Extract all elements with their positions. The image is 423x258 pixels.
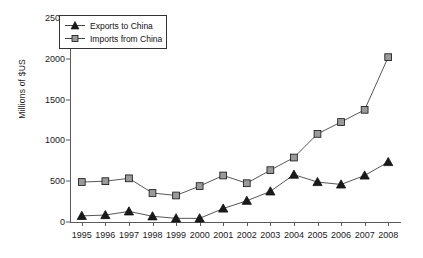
data-point-square: [267, 167, 274, 174]
x-axis-tick-mark: [129, 222, 130, 226]
x-axis-tick-label: 1999: [166, 230, 186, 240]
data-point-square: [126, 175, 133, 182]
triangle-marker-icon: [65, 20, 85, 31]
x-axis-tick-label: 2001: [213, 230, 233, 240]
data-point-square: [173, 192, 180, 199]
x-axis-tick-label: 2008: [378, 230, 398, 240]
x-axis-tick-label: 1998: [142, 230, 162, 240]
x-axis-tick-mark: [318, 222, 319, 226]
x-axis-tick-mark: [223, 222, 224, 226]
x-axis-tick-label: 1995: [72, 230, 92, 240]
data-point-square: [314, 130, 321, 137]
data-point-square: [220, 172, 227, 179]
data-point-triangle: [266, 187, 275, 195]
x-axis-tick-label: 1997: [119, 230, 139, 240]
x-axis-tick-mark: [294, 222, 295, 226]
data-point-square: [361, 106, 368, 113]
x-axis-tick-label: 2003: [260, 230, 280, 240]
data-point-triangle: [289, 170, 298, 178]
data-point-square: [291, 154, 298, 161]
legend-item-exports: Exports to China: [65, 19, 161, 32]
x-axis-tick-mark: [82, 222, 83, 226]
line-chart: Millions of $US 05001000150020002500 199…: [0, 0, 423, 258]
legend-item-imports: Imports from China: [65, 32, 161, 45]
x-axis-tick-mark: [365, 222, 366, 226]
x-axis-tick-label: 2004: [284, 230, 304, 240]
x-axis-tick-mark: [388, 222, 389, 226]
data-point-triangle: [219, 204, 228, 212]
data-point-square: [78, 179, 85, 186]
data-point-triangle: [124, 207, 133, 215]
data-point-triangle: [384, 157, 393, 165]
x-axis-tick-mark: [341, 222, 342, 226]
chart-legend: Exports to China Imports from China: [59, 15, 167, 49]
data-point-square: [102, 178, 109, 185]
legend-label-imports: Imports from China: [90, 34, 162, 44]
data-point-square: [196, 183, 203, 190]
x-axis-tick-label: 2002: [237, 230, 257, 240]
data-point-triangle: [360, 171, 369, 179]
square-marker-icon: [65, 33, 85, 44]
x-axis-tick-mark: [153, 222, 154, 226]
data-point-square: [149, 190, 156, 197]
data-point-square: [385, 54, 392, 61]
x-axis-tick-mark: [247, 222, 248, 226]
legend-label-exports: Exports to China: [90, 21, 153, 31]
y-axis-title: Millions of $US: [17, 41, 27, 137]
x-axis-tick-mark: [176, 222, 177, 226]
x-axis-tick-label: 1996: [95, 230, 115, 240]
x-axis-tick-label: 2005: [307, 230, 327, 240]
data-point-square: [338, 119, 345, 126]
data-point-square: [243, 180, 250, 187]
x-axis-tick-mark: [200, 222, 201, 226]
x-axis-tick-label: 2007: [355, 230, 375, 240]
data-point-triangle: [195, 214, 204, 222]
x-axis-tick-label: 2000: [190, 230, 210, 240]
data-point-triangle: [242, 196, 251, 204]
x-axis-tick-mark: [105, 222, 106, 226]
x-axis-ticks: 1995199619971998199920002001200220032004…: [70, 222, 401, 252]
data-point-triangle: [313, 177, 322, 185]
x-axis-tick-label: 2006: [331, 230, 351, 240]
x-axis-tick-mark: [270, 222, 271, 226]
